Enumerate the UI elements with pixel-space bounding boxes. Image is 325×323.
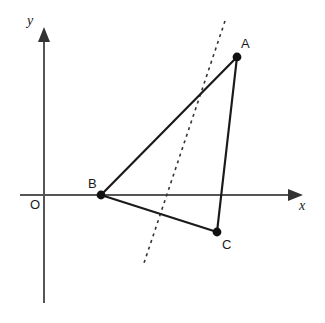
geometry-diagram [0, 0, 325, 323]
vertex-label-b: B [88, 177, 97, 190]
triangle-side-bc [101, 195, 217, 232]
vertex-label-a: A [241, 37, 250, 50]
figure-canvas: y x O A B C [0, 0, 325, 323]
triangle-side-ca [217, 57, 237, 232]
vertex-dot-b [97, 191, 106, 200]
vertex-dot-c [213, 228, 222, 237]
y-axis-arrowhead [38, 27, 50, 42]
origin-label: O [30, 198, 40, 211]
vertex-dot-a [233, 53, 242, 62]
x-axis-label: x [299, 199, 305, 213]
y-axis-label: y [27, 14, 33, 28]
dashed-construction-line [144, 21, 225, 263]
vertex-label-c: C [222, 238, 231, 251]
triangle-side-ab [101, 57, 237, 195]
